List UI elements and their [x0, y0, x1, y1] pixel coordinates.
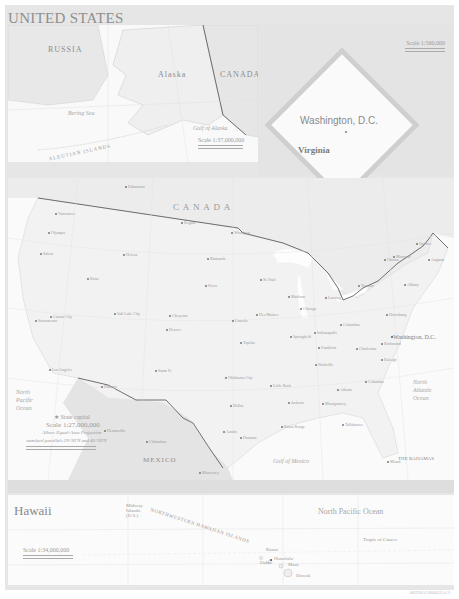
alaska-scale-bar — [198, 145, 243, 149]
label-canada-inset: CANADA — [220, 70, 258, 79]
city-label: Salem — [43, 251, 53, 256]
city-dot — [356, 348, 358, 350]
city-label: Augusta — [431, 257, 444, 262]
city-dot — [123, 254, 125, 256]
city-dot — [166, 329, 168, 331]
city-label: Little Rock — [273, 383, 291, 388]
label-honolulu: Honolulu — [274, 556, 293, 561]
city-dot — [300, 308, 302, 310]
city-dot — [205, 285, 207, 287]
city-dot — [207, 258, 209, 260]
city-label: Oklahoma City — [228, 375, 253, 380]
city-dot — [387, 461, 389, 463]
label-bering-sea: Bering Sea — [68, 110, 95, 116]
alaska-scale-text: Scale 1:37,000,000 — [198, 137, 244, 144]
label-gulf-alaska: Gulf of Alaska — [193, 125, 228, 131]
city-label: Nashville — [318, 362, 333, 367]
main-parallels: standard parallels 29°30'N and 45°30'N — [26, 437, 107, 445]
label-north-pacific-hawaii: North Pacific Ocean — [318, 507, 383, 516]
city-label: Olympia — [51, 230, 65, 235]
city-dot — [146, 441, 148, 443]
city-label: Santa Fe — [158, 368, 172, 373]
hawaii-scale-text: Scale 1:34,000,000 — [23, 547, 73, 554]
city-dot — [416, 243, 418, 245]
city-label: Miami — [390, 459, 401, 464]
city-label: Topeka — [243, 340, 255, 345]
city-dot — [49, 369, 51, 371]
city-dot — [114, 313, 116, 315]
city-label: Springfield — [293, 334, 311, 339]
city-label: Regina — [184, 220, 195, 225]
dc-scale-bar — [405, 48, 445, 52]
dc-title: Washington, D.C. — [300, 115, 378, 126]
city-label: Richmond — [384, 341, 401, 346]
city-label: Montreal — [396, 254, 411, 259]
label-tropic-cancer: Tropic of Cancer — [363, 537, 397, 542]
label-alaska: Alaska — [158, 70, 186, 79]
alaska-inset: RUSSIA Alaska CANADA Bering Sea ALEUTIAN… — [8, 25, 258, 162]
city-label: Salt Lake City — [117, 311, 140, 316]
city-label: Houston — [243, 435, 257, 440]
city-dot — [393, 256, 395, 258]
label-gulf-mexico: Gulf of Mexico — [273, 458, 309, 464]
label-mexico: MEXICO — [143, 456, 177, 464]
city-label: Edmonton — [128, 184, 145, 189]
city-label: Winnipeg — [234, 230, 250, 235]
hawaii-scale: Scale 1:34,000,000 — [23, 547, 73, 560]
city-label: Chihuahua — [149, 439, 166, 444]
city-dot — [101, 386, 103, 388]
main-projection: Albers Equal-Area Projection — [26, 429, 107, 437]
city-label: Lincoln — [235, 318, 247, 323]
label-canada: C A N A D A — [173, 202, 231, 212]
city-label: Monterrey — [202, 470, 219, 475]
city-label: Harrisburg — [389, 312, 406, 317]
legend-capital: ★ State capital — [26, 413, 107, 421]
city-dot — [230, 405, 232, 407]
city-label: Montgomery — [325, 401, 346, 406]
city-dot — [281, 426, 283, 428]
alaska-scale: Scale 1:37,000,000 — [198, 137, 244, 150]
main-map: C A N A D A MEXICO THE BAHAMAS Gulf of M… — [8, 178, 454, 480]
city-dot — [199, 472, 201, 474]
city-label: Indianapolis — [317, 330, 337, 335]
label-north-pacific: North Pacific Ocean — [16, 388, 33, 412]
city-label: Hermosillo — [107, 428, 125, 433]
city-label: Madison — [291, 294, 305, 299]
city-dot — [314, 332, 316, 334]
city-dot — [104, 430, 106, 432]
city-dot — [404, 284, 406, 286]
label-north-atlantic: North Atlantic Ocean — [413, 378, 432, 402]
city-dot — [223, 431, 225, 433]
city-dot — [365, 381, 367, 383]
honolulu-capital — [270, 559, 272, 561]
city-dot — [288, 296, 290, 298]
city-label: St. Paul — [263, 277, 275, 282]
city-dot — [384, 259, 386, 261]
city-label: Albany — [407, 282, 419, 287]
city-dot — [270, 385, 272, 387]
main-scale-text: Scale 1:27,000,000 — [26, 421, 107, 429]
city-dot — [40, 253, 42, 255]
city-dot — [87, 278, 89, 280]
city-dot — [48, 232, 50, 234]
city-label: Toronto — [361, 283, 374, 288]
city-label: Frankfort — [321, 345, 336, 350]
city-label: Pierre — [208, 283, 218, 288]
hawaii-inset: Hawaii North Pacific Ocean NORTHWESTERN … — [8, 495, 454, 585]
hawaii-scale-bar — [23, 555, 73, 559]
city-dot — [340, 324, 342, 326]
city-label: Phoenix — [104, 384, 117, 389]
city-dot — [315, 364, 317, 366]
label-oahu: Oahu — [260, 560, 271, 565]
city-label: Helena — [126, 252, 137, 257]
city-dot — [240, 342, 242, 344]
city-dot — [181, 222, 183, 224]
city-label: Charleston — [359, 346, 376, 351]
city-label: Raleigh — [384, 357, 396, 362]
city-label: Dallas — [233, 403, 243, 408]
city-label: Bismarck — [210, 256, 225, 261]
map-code: 802958AI (R00452) 4-11 — [410, 590, 451, 595]
label-washington-dc: Washington, D.C. — [393, 334, 436, 340]
city-dot — [155, 370, 157, 372]
label-maui: Maui — [288, 562, 299, 567]
